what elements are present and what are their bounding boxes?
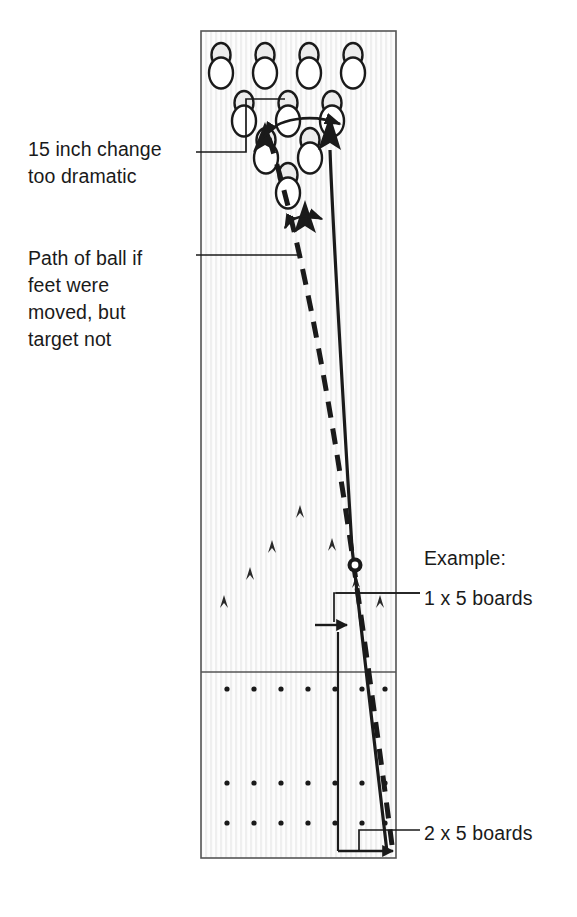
pin-9 <box>297 43 321 89</box>
label-example: Example: <box>424 545 506 572</box>
label-one-by-five-boards: 1 x 5 boards <box>424 585 533 612</box>
pin-7 <box>209 43 233 89</box>
label-path-of-ball: Path of ball if feet were moved, but tar… <box>28 245 142 353</box>
label-fifteen-inch-change: 15 inch change too dramatic <box>28 136 162 190</box>
pin-10 <box>341 43 365 89</box>
pin-8 <box>253 43 277 89</box>
pin-5 <box>276 91 300 137</box>
pin-3 <box>298 128 322 174</box>
ball-marker <box>348 558 363 573</box>
diagram-page: 15 inch change too dramatic Path of ball… <box>0 0 577 917</box>
label-two-by-five-boards: 2 x 5 boards <box>424 820 533 847</box>
pin-4 <box>232 91 256 137</box>
